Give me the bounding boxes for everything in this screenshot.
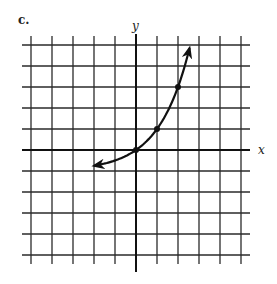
data-point xyxy=(175,84,181,90)
part-label: c. xyxy=(18,13,29,27)
coordinate-graph: c. x y xyxy=(0,0,277,284)
y-axis-label: y xyxy=(131,19,139,33)
x-axis-label: x xyxy=(258,143,265,157)
data-point xyxy=(133,147,139,153)
data-point xyxy=(154,126,160,132)
